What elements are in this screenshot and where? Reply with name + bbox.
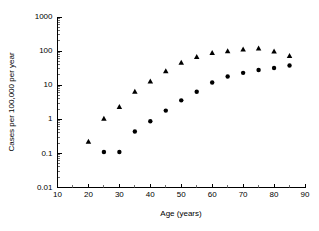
- data-point-circle: [210, 80, 214, 84]
- y-tick-label: 1: [48, 114, 53, 123]
- data-point-circle: [225, 74, 229, 78]
- x-tick-label: 50: [177, 190, 186, 199]
- data-point-triangle: [271, 48, 277, 53]
- scatter-plot-svg: 0.010.11101001000 102030405060708090 Age…: [0, 0, 319, 231]
- x-tick-label: 90: [301, 190, 310, 199]
- x-axis-ticks: 102030405060708090: [53, 184, 310, 200]
- data-point-circle: [133, 129, 137, 133]
- data-point-circle: [195, 90, 199, 94]
- data-point-triangle: [287, 53, 293, 58]
- data-point-triangle: [101, 116, 107, 121]
- data-point-circle: [179, 98, 183, 102]
- data-point-circle: [272, 66, 276, 70]
- x-tick-label: 60: [208, 190, 217, 199]
- x-tick-label: 40: [146, 190, 155, 199]
- x-tick-label: 30: [115, 190, 124, 199]
- data-point-circle: [148, 119, 152, 123]
- x-tick-label: 10: [53, 190, 62, 199]
- data-point-triangle: [86, 139, 92, 144]
- series-triangles: [86, 45, 293, 143]
- data-point-triangle: [117, 104, 123, 109]
- x-axis-title: Age (years): [160, 209, 202, 218]
- data-point-triangle: [132, 89, 138, 94]
- data-point-triangle: [256, 45, 262, 50]
- data-point-triangle: [225, 48, 231, 53]
- data-point-triangle: [209, 50, 215, 55]
- data-point-circle: [256, 68, 260, 72]
- data-point-triangle: [163, 68, 169, 73]
- y-tick-label: 100: [39, 46, 53, 55]
- x-tick-label: 80: [270, 190, 279, 199]
- y-tick-label: 10: [44, 80, 53, 89]
- x-tick-label: 20: [84, 190, 93, 199]
- chart-container: 0.010.11101001000 102030405060708090 Age…: [0, 0, 319, 231]
- data-series-group: [86, 45, 293, 154]
- y-axis-title: Cases per 100,000 per year: [7, 52, 16, 152]
- data-point-circle: [241, 71, 245, 75]
- y-tick-label: 0.01: [37, 183, 53, 192]
- data-point-circle: [287, 63, 291, 67]
- data-point-circle: [117, 150, 121, 154]
- data-point-circle: [164, 108, 168, 112]
- data-point-triangle: [178, 60, 184, 65]
- data-point-triangle: [240, 47, 246, 52]
- y-tick-label: 0.1: [41, 149, 53, 158]
- data-point-triangle: [148, 78, 154, 83]
- data-point-triangle: [194, 54, 200, 59]
- y-tick-label: 1000: [35, 12, 53, 21]
- data-point-circle: [102, 150, 106, 154]
- x-tick-label: 70: [239, 190, 248, 199]
- series-circles: [102, 63, 292, 154]
